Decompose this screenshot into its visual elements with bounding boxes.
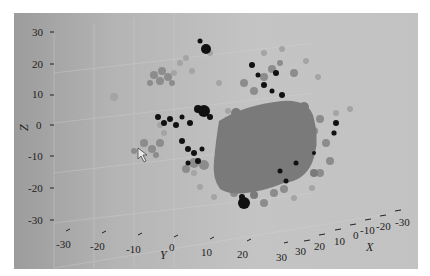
y-tick: 30: [276, 251, 288, 263]
z-tick: 10: [32, 88, 44, 100]
z-tick: -10: [28, 150, 43, 162]
y-tick: -20: [90, 240, 105, 252]
y-tick: 10: [201, 246, 213, 258]
y-tick: 0: [169, 241, 175, 253]
z-tick: 20: [32, 58, 44, 70]
mouse-cursor-icon: [138, 148, 147, 162]
x-tick: 20: [314, 240, 326, 252]
y-axis: -30 -20 -10 0 10 20 30 Y: [56, 229, 288, 263]
x-tick: 30: [295, 245, 307, 257]
z-tick: 30: [32, 26, 44, 38]
x-tick: -10: [360, 224, 375, 236]
z-axis-label: Z: [17, 124, 31, 131]
x-tick: -30: [395, 216, 410, 228]
y-tick: 20: [237, 248, 249, 260]
scatter-3d-svg: 30 20 10 0 -10 -20 -30 Z -30 -20 -10 0 1…: [14, 13, 418, 269]
x-tick: 0: [353, 229, 359, 241]
y-tick: -10: [126, 243, 141, 255]
y-tick: -30: [56, 238, 71, 250]
x-tick: 10: [334, 235, 346, 247]
x-axis: 30 20 10 0 -10 -20 -30 X: [295, 210, 410, 257]
plot-area: 30 20 10 0 -10 -20 -30 Z -30 -20 -10 0 1…: [14, 13, 418, 269]
z-tick: -20: [28, 182, 43, 194]
z-tick: 0: [36, 119, 42, 131]
x-tick: -20: [376, 220, 391, 232]
y-axis-label: Y: [160, 248, 168, 262]
x-axis-label: X: [365, 240, 374, 254]
z-tick: -30: [28, 214, 43, 226]
series-dense-cluster: [214, 101, 318, 199]
z-axis: 30 20 10 0 -10 -20 -30 Z: [17, 26, 54, 226]
